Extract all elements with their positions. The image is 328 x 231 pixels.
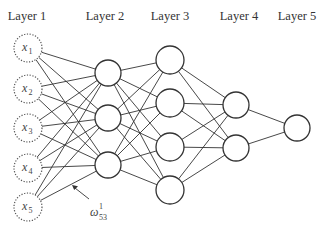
neuron-node xyxy=(284,115,310,141)
neuron-node xyxy=(95,60,121,86)
input-variable-subscript: 1 xyxy=(29,47,33,56)
neuron-node xyxy=(223,92,249,118)
input-variable-label: x xyxy=(21,120,28,134)
neuron-node xyxy=(156,89,184,117)
neuron-nodes: x1x2x3x4x5 xyxy=(14,34,310,221)
weight-edge xyxy=(248,110,285,124)
weight-symbol: ω xyxy=(90,205,98,219)
weight-edge xyxy=(42,76,96,87)
weight-edge xyxy=(182,112,225,140)
weight-edge xyxy=(117,113,160,156)
weight-edge xyxy=(39,57,99,109)
weight-edge xyxy=(184,103,223,104)
input-variable-subscript: 4 xyxy=(29,167,33,176)
neural-network-diagram: x1x2x3x4x5 Layer 1Layer 2Layer 3Layer 4L… xyxy=(0,0,328,231)
weight-edge xyxy=(42,165,95,167)
neuron-node xyxy=(95,105,121,131)
weight-edge xyxy=(182,68,226,98)
input-variable-label: x xyxy=(21,160,28,174)
connection-edges xyxy=(35,52,285,200)
weight-edge xyxy=(121,63,157,70)
weight-edge xyxy=(40,171,96,200)
weight-edge xyxy=(120,151,156,161)
weight-edge xyxy=(116,128,160,180)
weight-edge xyxy=(116,83,161,136)
weight-superscript: 1 xyxy=(99,202,103,211)
weight-edge xyxy=(41,134,96,160)
weight-edge xyxy=(115,72,163,154)
weight-annotation: ω153 xyxy=(72,185,107,222)
layer-label: Layer 1 xyxy=(8,9,47,23)
input-variable-subscript: 2 xyxy=(29,88,33,97)
input-variable-label: x xyxy=(21,199,28,213)
input-variable-subscript: 3 xyxy=(29,127,33,136)
weight-edge xyxy=(120,170,157,185)
layer-labels: Layer 1Layer 2Layer 3Layer 4Layer 5 xyxy=(8,9,317,23)
weight-subscript: 53 xyxy=(99,213,107,222)
weight-edge xyxy=(40,80,98,120)
neuron-node xyxy=(95,152,121,178)
layer-label: Layer 2 xyxy=(86,9,125,23)
weight-edge xyxy=(40,125,97,161)
input-variable-subscript: 5 xyxy=(29,206,33,215)
neuron-node xyxy=(223,135,249,161)
weight-edge xyxy=(248,132,284,144)
layer-label: Layer 4 xyxy=(220,9,259,23)
neuron-node xyxy=(156,46,184,74)
input-variable-label: x xyxy=(21,40,28,54)
weight-edge xyxy=(182,155,225,183)
neuron-node xyxy=(156,176,184,204)
annotation-arrow-shaft xyxy=(75,188,89,199)
weight-edge xyxy=(117,70,159,110)
input-variable-label: x xyxy=(21,81,28,95)
layer-label: Layer 5 xyxy=(278,9,317,23)
layer-label: Layer 3 xyxy=(151,9,190,23)
neuron-node xyxy=(156,133,184,161)
weight-edge xyxy=(42,120,95,127)
